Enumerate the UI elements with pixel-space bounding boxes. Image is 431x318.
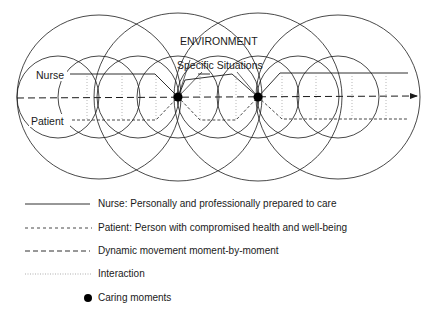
- legend-item-caring-moments: Caring moments: [0, 291, 431, 305]
- legend-label: Nurse: Personally and professionally pre…: [98, 197, 336, 211]
- environment-circle-4: [256, 15, 420, 179]
- specific-situations-label: Specific Situations: [177, 59, 263, 71]
- nurse-label: Nurse: [36, 69, 64, 81]
- legend-label: Dynamic movement moment-by-moment: [98, 244, 279, 258]
- legend-label: Interaction: [98, 267, 145, 281]
- environment-label: ENVIRONMENT: [180, 35, 258, 47]
- nurse-line: [70, 73, 408, 97]
- patient-line: [72, 97, 408, 120]
- legend-item-interaction: Interaction: [0, 267, 431, 281]
- legend-item-dynamic: Dynamic movement moment-by-moment: [0, 244, 431, 258]
- legend-item-patient: Patient: Person with compromised health …: [0, 221, 431, 235]
- caring-moment-dot-1: [174, 93, 183, 102]
- legend-label: Patient: Person with compromised health …: [98, 221, 347, 235]
- patient-label: Patient: [31, 115, 64, 127]
- caring-moment-dot-2: [254, 93, 263, 102]
- legend-label: Caring moments: [98, 291, 171, 305]
- legend-item-nurse: Nurse: Personally and professionally pre…: [0, 197, 431, 211]
